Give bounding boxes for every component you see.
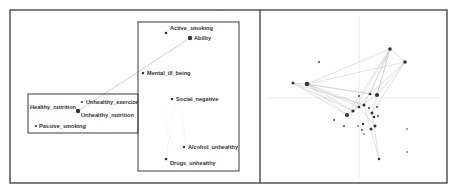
node-label-active-smoking: Active_smoking xyxy=(170,25,213,31)
figure-background xyxy=(0,0,457,193)
node-label-social-negative: Social_negative xyxy=(176,96,218,102)
network-figure: Active_smokingAbilityMental_ill_beingSoc… xyxy=(0,0,457,193)
network-node[interactable] xyxy=(371,112,374,115)
node-ability[interactable] xyxy=(188,36,192,40)
node-label-mental-ill-being: Mental_ill_being xyxy=(147,70,191,76)
network-node[interactable] xyxy=(361,129,363,131)
node-label-unhealthy-exercise: Unhealthy_exercize xyxy=(86,99,138,105)
network-node[interactable] xyxy=(351,109,354,112)
network-node[interactable] xyxy=(378,158,381,161)
node-label-alcohol-unhealthy: Alcohol_unhealthy xyxy=(188,144,239,150)
network-node[interactable] xyxy=(305,82,310,87)
network-node[interactable] xyxy=(388,47,392,51)
network-node[interactable] xyxy=(362,123,364,125)
network-node[interactable] xyxy=(333,119,335,121)
network-node[interactable] xyxy=(343,125,345,127)
node-alcohol-unhealthy[interactable] xyxy=(183,146,185,148)
network-node[interactable] xyxy=(370,128,373,131)
network-node[interactable] xyxy=(363,133,365,135)
node-drugs-unhealthy[interactable] xyxy=(165,158,168,161)
network-node[interactable] xyxy=(318,61,320,63)
network-node[interactable] xyxy=(403,60,407,64)
network-node[interactable] xyxy=(369,93,372,96)
network-node[interactable] xyxy=(374,125,377,128)
network-node[interactable] xyxy=(377,115,379,117)
node-active-smoking[interactable] xyxy=(165,32,168,35)
node-healthy-nutrition[interactable] xyxy=(76,109,80,113)
network-node[interactable] xyxy=(358,106,361,109)
node-passive-smoking[interactable] xyxy=(35,125,37,127)
network-node[interactable] xyxy=(406,151,408,153)
node-mental-ill-being[interactable] xyxy=(142,72,145,75)
node-social-negative[interactable] xyxy=(171,98,174,101)
node-unhealthy-exercise[interactable] xyxy=(81,101,83,103)
network-node[interactable] xyxy=(358,95,360,97)
node-label-healthy-nutrition: Healthy_nutrition xyxy=(30,104,77,110)
node-label-unhealthy-nutrition: Unhealthy_nutrition xyxy=(81,112,134,118)
node-label-drugs-unhealthy: Drugs_unhealthy xyxy=(170,160,217,166)
network-node[interactable] xyxy=(345,113,349,117)
network-node[interactable] xyxy=(406,128,408,130)
network-node[interactable] xyxy=(368,107,370,109)
network-node[interactable] xyxy=(375,93,379,97)
network-node[interactable] xyxy=(376,106,378,108)
network-node[interactable] xyxy=(363,104,366,107)
node-label-ability: Ability xyxy=(194,35,212,41)
network-node[interactable] xyxy=(357,125,359,127)
network-node[interactable] xyxy=(373,116,376,119)
node-label-passive-smoking: Passive_smoking xyxy=(39,123,87,129)
network-node[interactable] xyxy=(292,82,295,85)
